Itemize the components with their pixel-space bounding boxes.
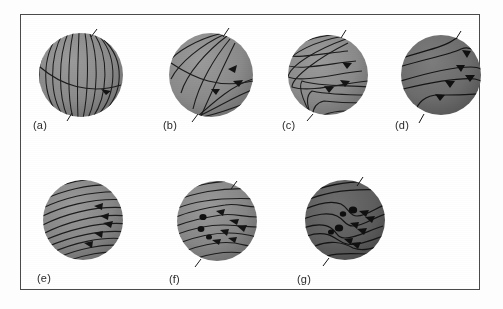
panel-g: (g) — [291, 170, 399, 288]
panel-label-g: (g) — [297, 273, 311, 285]
panel-f: (f) — [163, 173, 271, 289]
rotation-axis-north — [341, 30, 346, 38]
panel-label-e: (e) — [37, 272, 51, 284]
rotation-axis-north — [223, 28, 229, 37]
panel-d: (d) — [389, 25, 493, 129]
figure-frame: (a) — [20, 14, 480, 290]
sphere-a — [27, 23, 135, 131]
panel-label-c: (c) — [282, 119, 295, 131]
panel-b: (b) — [157, 23, 265, 131]
panel-label-b: (b) — [163, 119, 177, 131]
rotation-axis-north — [456, 31, 461, 39]
panel-label-f: (f) — [169, 273, 180, 285]
panel-a: (a) — [27, 23, 135, 131]
sphere-d — [389, 25, 493, 129]
panel-label-d: (d) — [395, 119, 409, 131]
panel-c: (c) — [276, 25, 380, 129]
rotation-axis-south — [195, 259, 201, 267]
sphere-f — [163, 173, 271, 289]
sphere-b — [157, 23, 265, 131]
sphere-g — [291, 170, 399, 288]
rotation-axis-south — [419, 114, 424, 123]
panel-e: (e) — [31, 175, 135, 285]
rotation-axis-south — [192, 114, 198, 122]
sphere-e — [31, 175, 135, 285]
rotation-axis-south — [307, 114, 313, 121]
panel-label-a: (a) — [33, 119, 47, 131]
rotation-axis-south — [323, 258, 329, 266]
sphere-c — [276, 25, 380, 129]
